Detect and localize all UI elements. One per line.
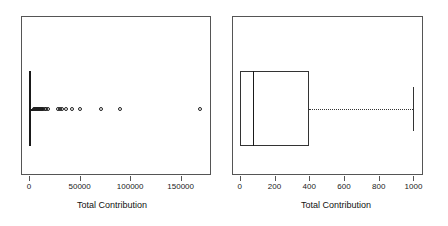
outlier-point bbox=[198, 107, 202, 111]
outlier-point bbox=[118, 107, 122, 111]
x-tick-label-left-0: 0 bbox=[27, 182, 31, 192]
x-tick-left-1 bbox=[80, 176, 81, 181]
x-axis-title-right: Total Contribution bbox=[224, 200, 448, 211]
x-tick-label-left-2: 100000 bbox=[117, 182, 144, 192]
x-tick-label-left-3: 150000 bbox=[167, 182, 194, 192]
x-tick-left-2 bbox=[130, 176, 131, 181]
x-axis-title-left: Total Contribution bbox=[0, 200, 224, 211]
x-tick-right-4 bbox=[379, 176, 380, 181]
x-tick-right-1 bbox=[275, 176, 276, 181]
x-tick-left-3 bbox=[181, 176, 182, 181]
x-tick-label-right-3: 600 bbox=[337, 182, 350, 192]
outlier-point bbox=[64, 107, 68, 111]
x-tick-label-left-1: 50000 bbox=[68, 182, 90, 192]
whisker-upper-right bbox=[309, 109, 413, 110]
x-tick-label-right-0: 0 bbox=[238, 182, 242, 192]
x-tick-right-0 bbox=[240, 176, 241, 181]
outlier-point bbox=[70, 107, 74, 111]
outlier-point bbox=[99, 107, 103, 111]
outlier-point bbox=[78, 107, 82, 111]
x-tick-right-5 bbox=[413, 176, 414, 181]
boxplot-figure: 050000100000150000 Total Contribution 02… bbox=[0, 0, 448, 226]
x-tick-label-right-4: 800 bbox=[372, 182, 385, 192]
panel-right: 02004006008001000 Total Contribution bbox=[224, 0, 448, 226]
plot-frame-left bbox=[21, 16, 211, 175]
whisker-cap-upper-right bbox=[413, 87, 414, 131]
x-tick-right-2 bbox=[309, 176, 310, 181]
box-right bbox=[240, 71, 309, 146]
outlier-point bbox=[46, 107, 50, 111]
x-tick-right-3 bbox=[344, 176, 345, 181]
panel-left: 050000100000150000 Total Contribution bbox=[0, 0, 224, 226]
median-line-right bbox=[253, 71, 254, 146]
x-tick-label-right-5: 1000 bbox=[405, 182, 423, 192]
x-tick-label-right-2: 400 bbox=[303, 182, 316, 192]
x-tick-label-right-1: 200 bbox=[268, 182, 281, 192]
x-tick-left-0 bbox=[29, 176, 30, 181]
